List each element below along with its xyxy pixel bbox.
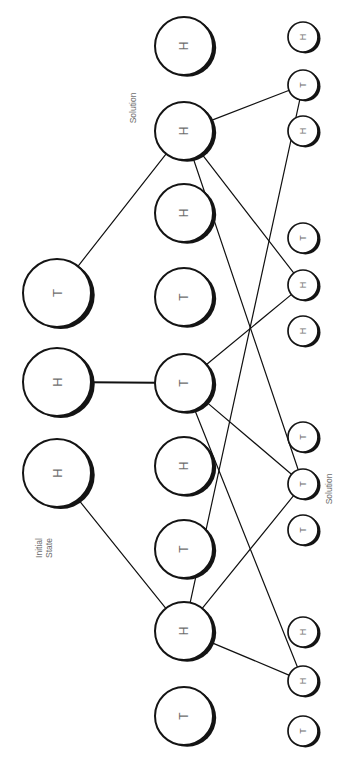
graph-node[interactable]: H — [288, 316, 321, 347]
graph-node[interactable]: H — [288, 22, 321, 53]
graph-node[interactable]: H — [155, 184, 216, 244]
node-label: T — [298, 527, 308, 533]
node-label: H — [50, 468, 65, 477]
graph-node[interactable]: H — [155, 602, 216, 662]
node-label: H — [298, 34, 308, 41]
node-label: H — [177, 127, 191, 136]
graph-node[interactable]: T — [155, 520, 216, 580]
nodes-layer: THHHHHTTHTHTHTHTHHTTTHHT — [23, 17, 321, 747]
node-label: H — [298, 328, 308, 335]
solution-label-bottom: Solution — [324, 473, 334, 504]
solution-label-bottom-line: Solution — [324, 473, 334, 504]
node-label: T — [298, 728, 308, 734]
node-label: T — [177, 379, 191, 387]
node-label: H — [177, 627, 191, 636]
graph-node[interactable]: H — [155, 437, 216, 497]
node-label: H — [177, 209, 191, 218]
graph-node[interactable]: T — [288, 515, 321, 546]
graph-node[interactable]: T — [288, 716, 321, 747]
graph-node[interactable]: H — [288, 270, 321, 301]
graph-node[interactable]: H — [288, 116, 321, 147]
graph-node[interactable]: T — [23, 259, 95, 329]
graph-node[interactable]: T — [288, 469, 321, 500]
edge — [206, 294, 293, 365]
solution-label-top: Solution — [128, 92, 138, 123]
graph-node[interactable]: T — [155, 687, 216, 747]
node-label: T — [177, 545, 191, 553]
graph-node[interactable]: H — [288, 617, 321, 648]
node-label: T — [298, 82, 308, 88]
graph-node[interactable]: H — [23, 348, 95, 418]
graph-node[interactable]: T — [155, 268, 216, 328]
graph-node[interactable]: H — [288, 666, 321, 697]
initial-state-label-line: State — [44, 538, 54, 558]
node-label: H — [298, 678, 308, 685]
node-label: H — [177, 462, 191, 471]
graph-canvas: THHHHHTTHTHTHTHTHHTTTHHT InitialStateSol… — [0, 0, 350, 759]
initial-state-label-line: Initial — [34, 538, 44, 558]
search-tree-diagram: THHHHHTTHTHTHTHTHHTTTHHT InitialStateSol… — [0, 0, 350, 759]
node-label: T — [177, 293, 191, 301]
node-label: H — [298, 128, 308, 135]
graph-node[interactable]: H — [23, 439, 95, 509]
edge — [210, 642, 290, 676]
edge — [210, 90, 290, 121]
node-label: T — [50, 289, 65, 297]
node-label: T — [298, 481, 308, 487]
node-label: H — [177, 42, 191, 51]
graph-node[interactable]: T — [288, 422, 321, 453]
graph-node[interactable]: T — [288, 70, 321, 101]
graph-node[interactable]: T — [288, 223, 321, 254]
edge — [78, 499, 167, 609]
graph-node[interactable]: H — [155, 102, 216, 162]
node-label: T — [177, 712, 191, 720]
edge — [77, 153, 166, 267]
initial-state-label: InitialState — [34, 538, 54, 558]
solution-label-top-line: Solution — [128, 92, 138, 123]
graph-node[interactable]: T — [155, 354, 216, 414]
node-label: H — [50, 377, 65, 386]
node-label: H — [298, 282, 308, 289]
node-label: T — [298, 235, 308, 241]
graph-node[interactable]: H — [155, 17, 216, 77]
node-label: H — [298, 629, 308, 636]
edge — [90, 382, 156, 383]
edge — [190, 99, 300, 604]
node-label: T — [298, 434, 308, 440]
